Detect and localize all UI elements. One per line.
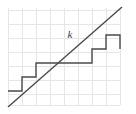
grid-vertical-lines bbox=[8, 8, 120, 105]
figure-container: k bbox=[0, 0, 136, 114]
line-k bbox=[8, 7, 122, 107]
geometry-figure: k bbox=[0, 0, 136, 114]
